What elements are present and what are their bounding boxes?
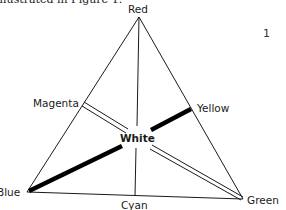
label-green: Green [247, 195, 279, 206]
label-white: White [120, 133, 155, 144]
label-magenta: Magenta [33, 98, 79, 109]
thin-connectors [135, 17, 139, 196]
double-connectors [82, 102, 243, 200]
label-yellow: Yellow [197, 103, 229, 114]
label-cyan: Cyan [121, 200, 148, 210]
label-red: Red [128, 4, 148, 15]
label-blue: Blue [0, 187, 20, 198]
